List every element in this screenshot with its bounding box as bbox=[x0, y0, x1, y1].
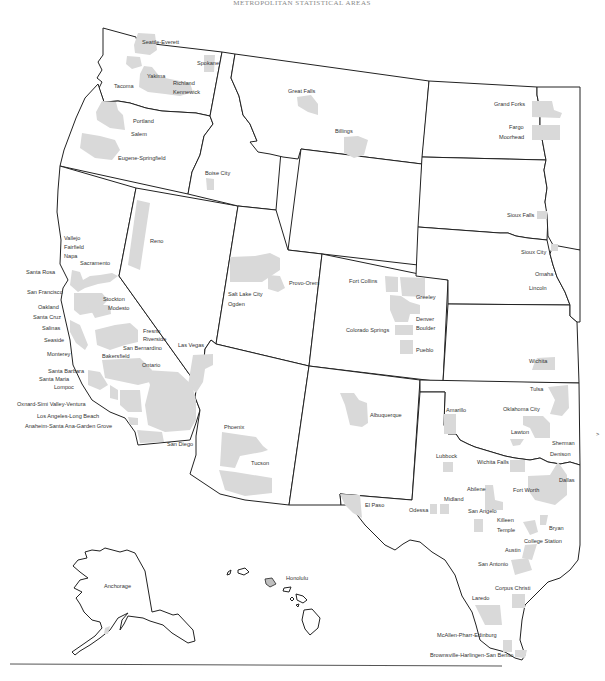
label-san-antonio: San Antonio bbox=[478, 561, 508, 567]
label-eugene: Eugene-Springfield bbox=[118, 155, 166, 161]
label-ontario: Ontario bbox=[142, 362, 160, 368]
state-alaska[interactable] bbox=[72, 548, 195, 655]
hawaii-molokai[interactable] bbox=[283, 587, 291, 592]
label-lubbock: Lubbock bbox=[436, 453, 457, 459]
label-boise: Boise City bbox=[205, 170, 230, 176]
label-grand-forks: Grand Forks bbox=[494, 101, 525, 107]
page-edge-mark: > bbox=[596, 431, 599, 437]
msa-odessa[interactable] bbox=[430, 504, 437, 514]
hawaii-kahoolawe[interactable] bbox=[296, 604, 299, 607]
msa-colorado-springs[interactable] bbox=[395, 325, 413, 335]
label-santa-rosa: Santa Rosa bbox=[26, 269, 56, 275]
label-stockton: Stockton bbox=[103, 296, 125, 302]
label-san-diego: San Diego bbox=[167, 441, 193, 447]
label-boulder: Boulder bbox=[416, 325, 435, 331]
label-lawton: Lawton bbox=[511, 429, 529, 435]
label-napa: Napa bbox=[64, 253, 78, 259]
msa-lubbock[interactable] bbox=[443, 462, 453, 472]
alaska-inset bbox=[72, 548, 195, 655]
label-brownsville: Brownsville-Harlingen-San Benito bbox=[430, 652, 513, 658]
label-sherman: Sherman bbox=[552, 440, 575, 446]
msa-sioux-falls[interactable] bbox=[537, 211, 547, 219]
msa-midland[interactable] bbox=[440, 504, 449, 514]
label-fort-collins: Fort Collins bbox=[349, 278, 377, 284]
label-san-angelo: San Angelo bbox=[468, 508, 497, 514]
hawaii-maui[interactable] bbox=[296, 594, 307, 603]
hawaii-kauai-small[interactable] bbox=[227, 570, 231, 575]
label-mcallen: McAllen-Pharr-Edinburg bbox=[437, 632, 497, 638]
msa-san-angelo[interactable] bbox=[474, 519, 483, 532]
label-amarillo: Amarillo bbox=[446, 407, 466, 413]
label-san-bernardino: San Bernardino bbox=[123, 345, 162, 351]
msa-map: METROPOLITAN STATISTICAL AREAS bbox=[0, 0, 605, 681]
msa-pueblo[interactable] bbox=[400, 340, 413, 354]
label-billings: Billings bbox=[335, 128, 353, 134]
label-spokane: Spokane bbox=[197, 60, 219, 66]
label-riverside: Riverside bbox=[143, 336, 166, 342]
state-kansas[interactable] bbox=[443, 304, 579, 383]
state-montana[interactable] bbox=[231, 54, 429, 164]
label-sioux-city: Sioux City bbox=[521, 249, 546, 255]
bottom-rule bbox=[10, 664, 502, 666]
msa-san-diego[interactable] bbox=[137, 430, 164, 443]
msa-el-paso[interactable] bbox=[340, 494, 362, 518]
state-new-mexico[interactable] bbox=[289, 366, 420, 505]
label-santa-cruz: Santa Cruz bbox=[33, 314, 61, 320]
hawaii-oahu[interactable] bbox=[265, 578, 276, 587]
label-omaha: Omaha bbox=[535, 271, 554, 277]
label-fargo: Fargo bbox=[509, 124, 524, 130]
hawaii-lanai[interactable] bbox=[290, 597, 294, 601]
label-bakersfield: Bakersfield bbox=[102, 353, 130, 359]
msa-mcallen[interactable] bbox=[503, 640, 512, 652]
label-san-francisco: San Francisco bbox=[27, 289, 63, 295]
label-sioux-falls: Sioux Falls bbox=[507, 212, 535, 218]
state-wyoming[interactable] bbox=[288, 149, 422, 265]
label-abilene: Abilene bbox=[467, 486, 486, 492]
label-los-angeles: Los Angeles-Long Beach bbox=[37, 413, 99, 419]
label-austin: Austin bbox=[505, 547, 521, 553]
msa-fargo-moorhead[interactable] bbox=[532, 125, 560, 140]
label-honolulu: Honolulu bbox=[286, 575, 308, 581]
label-yakima: Yakima bbox=[147, 73, 166, 79]
label-wichita-falls: Wichita Falls bbox=[477, 459, 509, 465]
label-albuquerque: Albuquerque bbox=[370, 412, 402, 418]
label-fresno: Fresno bbox=[143, 328, 160, 334]
label-dallas: Dallas bbox=[559, 477, 575, 483]
label-sacramento: Sacramento bbox=[80, 260, 110, 266]
msa-sioux-city[interactable] bbox=[551, 244, 558, 251]
label-college-station: College Station bbox=[524, 538, 562, 544]
label-phoenix: Phoenix bbox=[224, 424, 244, 430]
label-oakland: Oakland bbox=[38, 304, 59, 310]
label-seattle: Seattle-Everett bbox=[142, 39, 179, 45]
msa-corpus-christi[interactable] bbox=[512, 594, 525, 608]
state-north-dakota[interactable] bbox=[422, 81, 546, 160]
label-salinas: Salinas bbox=[42, 325, 61, 331]
label-vallejo: Vallejo bbox=[64, 235, 80, 241]
msa-brownsville[interactable] bbox=[515, 650, 527, 658]
label-pueblo: Pueblo bbox=[416, 347, 433, 353]
label-killeen: Killeen bbox=[497, 517, 514, 523]
hawaii-kauai[interactable] bbox=[238, 568, 249, 575]
msa-wichita-falls[interactable] bbox=[510, 460, 525, 472]
label-salem: Salem bbox=[131, 131, 147, 137]
label-richland: Richland bbox=[173, 80, 195, 86]
label-lincoln: Lincoln bbox=[529, 285, 547, 291]
label-colorado-springs: Colorado Springs bbox=[346, 327, 389, 333]
label-denison: Denison bbox=[550, 451, 571, 457]
label-denver: Denver bbox=[416, 316, 434, 322]
state-south-dakota[interactable] bbox=[418, 157, 548, 240]
label-great-falls: Great Falls bbox=[288, 88, 316, 94]
label-santa-maria: Santa Maria bbox=[39, 376, 70, 382]
label-lompoc: Lompoc bbox=[54, 384, 74, 390]
label-kennewick: Kennewick bbox=[173, 89, 200, 95]
label-oklahoma-city: Oklahoma City bbox=[503, 406, 540, 412]
label-moorhead: Moorhead bbox=[499, 134, 524, 140]
label-el-paso: El Paso bbox=[365, 502, 384, 508]
label-midland: Midland bbox=[444, 496, 464, 502]
hawaii-big-island[interactable] bbox=[302, 609, 320, 635]
msa-fort-collins[interactable] bbox=[385, 276, 398, 292]
msa-amarillo[interactable] bbox=[444, 414, 456, 434]
msa-boise[interactable] bbox=[206, 178, 214, 190]
label-fairfield: Fairfield bbox=[64, 244, 84, 250]
label-tulsa: Tulsa bbox=[530, 386, 544, 392]
